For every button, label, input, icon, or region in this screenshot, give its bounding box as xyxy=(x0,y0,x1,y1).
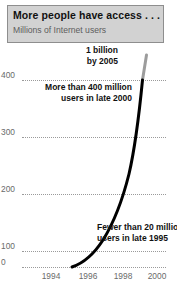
plot-area: 400 300 200 100 0 1994 1996 1998 2000 1 … xyxy=(0,44,177,298)
annotation-1-billion: 1 billion by 2005 xyxy=(63,45,118,67)
projection-line xyxy=(143,55,147,80)
annotation-1-billion-line1: 1 billion xyxy=(63,45,118,56)
annotation-20-million-line2: users in late 1995 xyxy=(97,233,177,244)
chart-figure: More people have access . . . Millions o… xyxy=(0,0,177,298)
annotation-400-million: More than 400 million users in late 2000 xyxy=(27,82,132,104)
annotation-20-million: Fewer than 20 million users in late 1995 xyxy=(97,222,177,244)
page-title: More people have access . . . xyxy=(13,9,160,21)
annotation-1-billion-line2: by 2005 xyxy=(63,56,118,67)
annotation-400-million-line2: users in late 2000 xyxy=(27,93,132,104)
annotation-400-million-line1: More than 400 million xyxy=(27,82,132,93)
chart-subtitle: Millions of Internet users xyxy=(13,25,106,35)
chart-header-band: More people have access . . . Millions o… xyxy=(7,5,164,43)
annotation-20-million-line1: Fewer than 20 million xyxy=(97,222,177,233)
